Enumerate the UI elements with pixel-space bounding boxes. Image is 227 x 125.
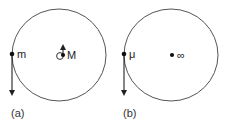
caption-a: (a)	[11, 107, 24, 119]
panel-a: m M (a)	[10, 9, 106, 119]
panel-b: μ ∞ (b)	[122, 9, 218, 119]
body-dot-M	[61, 53, 65, 57]
label-infinity: ∞	[177, 49, 185, 61]
label-mu: μ	[129, 48, 135, 60]
label-m: m	[17, 48, 26, 60]
label-M: M	[67, 49, 76, 61]
body-dot-mu	[122, 52, 127, 57]
body-dot-m	[10, 52, 15, 57]
body-dot-infinity	[170, 53, 174, 57]
caption-b: (b)	[123, 107, 136, 119]
two-body-orbit-diagram: m M (a) μ ∞ (b)	[0, 0, 227, 125]
